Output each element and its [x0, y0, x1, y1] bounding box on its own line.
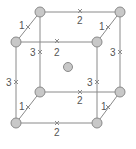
edge-label: 3 — [87, 77, 93, 88]
atom-back-top-left — [35, 7, 45, 17]
cross-mark-icon — [26, 105, 30, 109]
edge-label: 1 — [101, 101, 107, 112]
edge-label: 1 — [19, 101, 25, 112]
edge-label: 1 — [99, 21, 105, 32]
edge-label: 2 — [54, 127, 60, 138]
edge-label: 1 — [19, 20, 25, 31]
edge-label: 2 — [77, 15, 83, 26]
edge-label: 2 — [54, 47, 60, 58]
edge-label: 3 — [30, 47, 36, 58]
atom-front-top-right — [92, 37, 102, 47]
atoms — [11, 7, 125, 128]
edge-label: 2 — [77, 95, 83, 106]
atom-back-bottom-right — [115, 87, 125, 97]
atom-front-top-left — [11, 37, 21, 47]
atom-back-top-right — [115, 7, 125, 17]
edge-label: 3 — [6, 77, 12, 88]
edge-label: 3 — [110, 47, 116, 58]
atom-back-bottom-left — [35, 87, 45, 97]
atom-body-center — [64, 63, 73, 72]
cube-diagram-svg: 1 2 1 3 2 3 3 3 2 1 1 2 — [0, 0, 136, 149]
cross-mark-icon — [26, 25, 30, 29]
cube-diagram: 1 2 1 3 2 3 3 3 2 1 1 2 — [0, 0, 136, 149]
atom-front-bottom-right — [92, 118, 102, 128]
atom-front-bottom-left — [11, 118, 21, 128]
